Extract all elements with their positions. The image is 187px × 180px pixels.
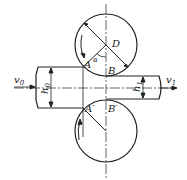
angle-arc (97, 54, 106, 57)
label-A-prime: A′ (84, 103, 95, 114)
label-B: B (107, 65, 115, 76)
label-h1: h1 (131, 81, 144, 92)
rolling-diagram: D A α B A′ B′ v0 v1 h0 h1 (0, 0, 187, 180)
label-B-prime: B′ (107, 103, 118, 114)
label-A: A (83, 59, 91, 70)
label-D: D (111, 38, 120, 49)
label-v0: v0 (14, 74, 25, 87)
label-alpha: α (93, 56, 98, 64)
label-v1: v1 (166, 74, 176, 87)
label-h0: h0 (39, 83, 52, 94)
